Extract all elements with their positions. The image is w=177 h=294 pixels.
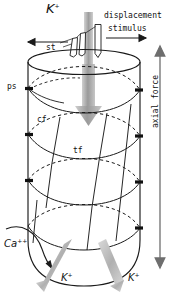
plasma-membrane-pleat-strand: [29, 78, 80, 103]
label-ca-charge: ++: [17, 237, 27, 244]
figure-canvas: K+ displacement stimulus st ps cf tf axi…: [0, 0, 177, 294]
displacement-arrow: [106, 35, 146, 42]
label-st: st: [46, 44, 56, 52]
label-k-efflux-right-charge: +: [135, 271, 140, 278]
label-k-efflux-left: K+: [61, 272, 73, 283]
label-k-influx: K+: [46, 2, 60, 15]
label-axial-force: axial force: [152, 75, 160, 128]
label-displacement: displacement: [104, 12, 162, 20]
diagram-svg: [0, 0, 177, 294]
label-cf: cf: [37, 116, 47, 124]
label-stimulus: stimulus: [108, 25, 147, 33]
label-ps: ps: [7, 83, 17, 91]
label-k-influx-charge: +: [55, 2, 60, 9]
label-k-efflux-left-charge: +: [68, 271, 73, 278]
label-k-influx-text: K: [46, 1, 55, 16]
transverse-filaments: [33, 104, 131, 250]
label-ca-text: Ca: [4, 238, 17, 249]
label-ca-influx: Ca++: [4, 238, 27, 249]
intracellular-flow-arrow: [75, 64, 102, 126]
label-tf: tf: [73, 147, 83, 155]
label-k-efflux-right: K+: [128, 272, 140, 283]
